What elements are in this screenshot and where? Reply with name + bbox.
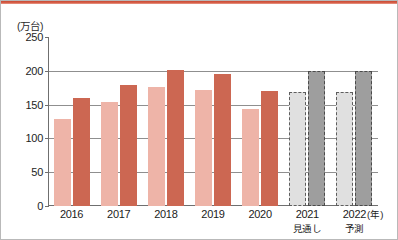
top-accent-rule <box>1 1 397 4</box>
x-tick-year: 2021 <box>284 207 331 222</box>
bar-2019-dark <box>214 74 231 206</box>
x-tick-year: 2020 <box>237 207 284 222</box>
x-tick-year: 2017 <box>95 207 142 222</box>
x-axis-unit-label: (年) <box>367 207 383 222</box>
x-tick-year: 2016 <box>48 207 95 222</box>
bar-2017-light <box>101 102 118 206</box>
bar-group <box>189 37 236 206</box>
x-tick-year: 2019 <box>189 207 236 222</box>
bar-2018-dark <box>167 70 184 206</box>
bar-series-container <box>48 37 378 206</box>
bar-group <box>237 37 284 206</box>
y-tick-label: 200 <box>9 65 43 77</box>
bar-group <box>142 37 189 206</box>
bar-2017-dark <box>120 85 137 206</box>
x-tick-group: 2016 <box>48 207 95 235</box>
bar-group <box>95 37 142 206</box>
x-tick-group: 2018 <box>142 207 189 235</box>
bar-2020-dark <box>261 91 278 206</box>
y-tick-label: 100 <box>9 132 43 144</box>
y-tick-label: 150 <box>9 99 43 111</box>
bar-group <box>48 37 95 206</box>
x-tick-group: 2019 <box>189 207 236 235</box>
y-tick-label: 250 <box>9 31 43 43</box>
bar-2021-light <box>289 92 306 206</box>
x-tick-group: 2020 <box>237 207 284 235</box>
bar-group <box>331 37 378 206</box>
bar-2016-dark <box>73 98 90 206</box>
bar-2020-light <box>242 109 259 206</box>
bar-2019-light <box>195 90 212 206</box>
bar-2022-dark <box>355 71 372 206</box>
x-tick-sublabel: 見通し <box>284 222 331 235</box>
y-tick-label: 50 <box>9 166 43 178</box>
x-axis-tick-labels: 201620172018201920202021見通し2022予測 <box>48 207 378 235</box>
bar-group <box>284 37 331 206</box>
x-tick-sublabel: 予測 <box>331 222 378 235</box>
x-tick-group: 2021見通し <box>284 207 331 235</box>
bar-2018-light <box>148 87 165 206</box>
bar-2016-light <box>54 119 71 206</box>
bar-2021-dark <box>308 71 325 206</box>
y-axis-tick-labels: 050100150200250 <box>9 1 43 240</box>
bar-2022-light <box>336 92 353 206</box>
x-tick-group: 2017 <box>95 207 142 235</box>
y-tick-label: 0 <box>9 200 43 212</box>
x-tick-year: 2018 <box>142 207 189 222</box>
chart-figure: (万台) 050100150200250 2016201720182019202… <box>0 0 398 240</box>
